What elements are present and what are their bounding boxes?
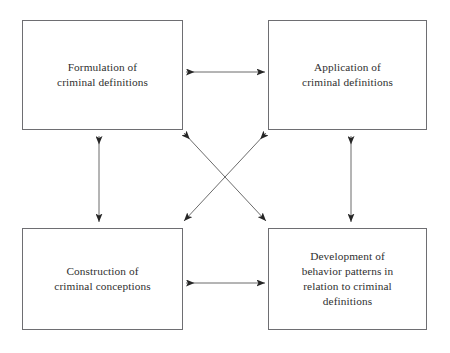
diagram-canvas: Formulation of criminal definitions Appl… — [0, 0, 450, 353]
connector-diagonal-formulation-development — [184, 133, 266, 221]
node-box-application[interactable]: Application of criminal definitions — [268, 20, 427, 130]
node-label-construction: Construction of criminal conceptions — [46, 264, 158, 294]
node-box-formulation[interactable]: Formulation of criminal definitions — [22, 20, 183, 130]
node-label-application: Application of criminal definitions — [294, 60, 401, 90]
connector-diagonal-application-construction — [184, 133, 266, 221]
node-box-development[interactable]: Development of behavior patterns in rela… — [268, 228, 427, 330]
node-label-development: Development of behavior patterns in rela… — [294, 249, 402, 309]
node-box-construction[interactable]: Construction of criminal conceptions — [22, 228, 183, 330]
node-label-formulation: Formulation of criminal definitions — [49, 60, 156, 90]
